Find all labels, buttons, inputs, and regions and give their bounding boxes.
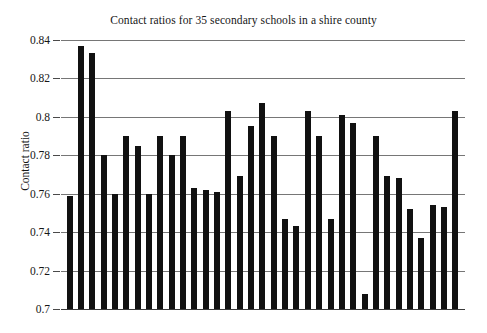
bar <box>146 194 152 309</box>
y-axis-tick-label: 0.74 <box>30 226 50 238</box>
bar <box>237 176 243 309</box>
y-axis-tick-label: 0.84 <box>30 34 50 46</box>
bar <box>89 53 95 309</box>
bar <box>123 136 129 309</box>
bar <box>418 238 424 309</box>
y-axis-tick-label: 0.76 <box>30 188 50 200</box>
bar <box>101 155 107 309</box>
bar <box>339 115 345 309</box>
bar <box>169 155 175 309</box>
bar <box>316 136 322 309</box>
bar <box>248 126 254 309</box>
y-axis-tick-label: 0.7 <box>36 303 50 315</box>
y-axis-tick-label: 0.8 <box>36 111 50 123</box>
gridline <box>61 309 465 310</box>
y-axis-tick <box>53 271 60 272</box>
bar <box>384 176 390 309</box>
bar <box>293 226 299 309</box>
bar <box>373 136 379 309</box>
bar <box>350 123 356 309</box>
bar <box>396 178 402 309</box>
bar <box>180 136 186 309</box>
y-axis-tick <box>53 194 60 195</box>
plot-area: 0.840.820.80.780.760.740.720.7 <box>61 40 465 309</box>
y-axis-tick <box>53 155 60 156</box>
bar <box>78 46 84 309</box>
bar <box>362 294 368 309</box>
bar <box>282 219 288 309</box>
bar <box>328 219 334 309</box>
bar <box>225 111 231 309</box>
bar <box>305 111 311 309</box>
y-axis-tick-label: 0.78 <box>30 149 50 161</box>
bottom-caption <box>28 325 468 333</box>
bar <box>214 192 220 309</box>
chart-figure: Contact ratios for 35 secondary schools … <box>0 0 487 333</box>
bar <box>157 136 163 309</box>
bar <box>112 194 118 309</box>
bar <box>441 207 447 309</box>
bar <box>407 209 413 309</box>
y-axis-tick <box>53 117 60 118</box>
y-axis-tick-label: 0.82 <box>30 72 50 84</box>
bars-layer <box>61 40 465 309</box>
chart-title: Contact ratios for 35 secondary schools … <box>0 14 487 26</box>
y-axis-tick-label: 0.72 <box>30 265 50 277</box>
y-axis-tick <box>53 78 60 79</box>
bar <box>271 136 277 309</box>
bar <box>67 196 73 309</box>
bar <box>191 188 197 309</box>
y-axis-tick <box>53 309 60 310</box>
bar <box>135 146 141 309</box>
y-axis-tick <box>53 40 60 41</box>
y-axis-tick <box>53 232 60 233</box>
bar <box>259 103 265 309</box>
bar <box>452 111 458 309</box>
bar <box>430 205 436 309</box>
bar <box>203 190 209 309</box>
